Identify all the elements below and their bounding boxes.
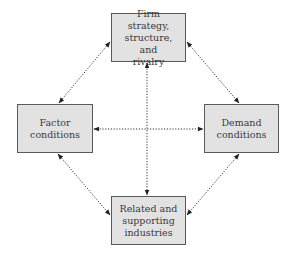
- node-factor-conditions: Factor conditions: [17, 104, 93, 153]
- node-demand-conditions: Demand conditions: [204, 104, 279, 153]
- node-firm-strategy: Firm strategy, structure, and rivalry: [111, 13, 186, 62]
- arrow-right-bottom: [187, 154, 239, 215]
- arrow-left-bottom: [58, 154, 110, 215]
- arrow-top-left: [59, 42, 110, 103]
- arrow-top-right: [187, 42, 239, 103]
- node-related-industries: Related and supporting industries: [111, 196, 186, 245]
